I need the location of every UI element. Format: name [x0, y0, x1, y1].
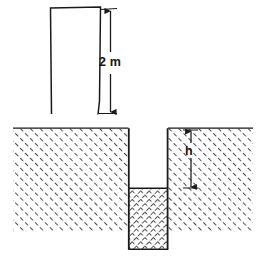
tube-group	[51, 7, 101, 115]
capillary-rise-label: h	[185, 145, 193, 158]
void-column-fill	[129, 128, 169, 188]
saturated-column-fill-b	[129, 188, 169, 249]
soil-tube-diagram	[0, 0, 265, 265]
tube-length-label: 2 m	[99, 56, 121, 69]
dimension-extension-top	[100, 9, 117, 10]
tube-outline	[51, 7, 101, 115]
soil-block-left	[13, 129, 128, 233]
figure-canvas: 2 m h	[0, 0, 265, 265]
buried-column-group	[128, 128, 168, 249]
soil-block-right	[168, 129, 253, 233]
